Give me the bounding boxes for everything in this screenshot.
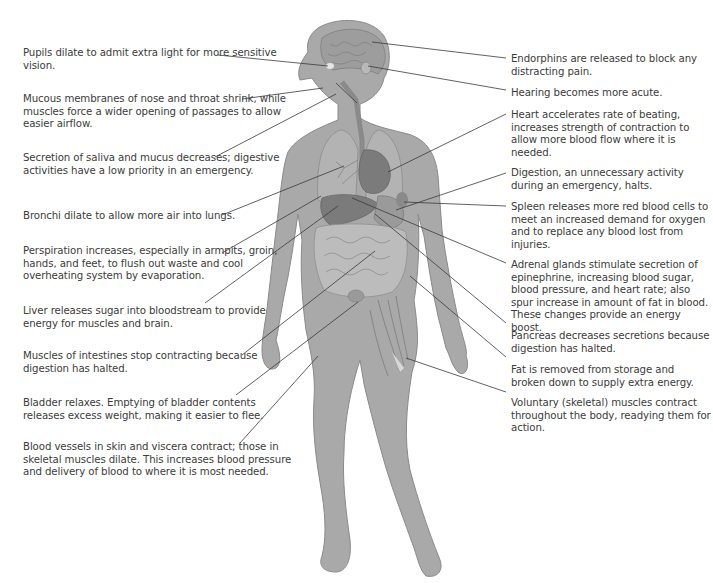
label-digestion: Digestion, an unnecessary activity durin… [511,167,711,192]
label-heart: Heart accelerates rate of beating, incre… [511,109,711,159]
label-pupils: Pupils dilate to admit extra light for m… [23,47,293,72]
label-saliva: Secretion of saliva and mucus decreases;… [23,152,293,177]
bladder [348,290,364,302]
label-liver: Liver releases sugar into bloodstream to… [23,305,293,330]
label-pancreas: Pancreas decreases secretions because di… [511,330,711,355]
label-adrenal: Adrenal glands stimulate secretion of ep… [511,259,711,335]
fight-or-flight-diagram: Pupils dilate to admit extra light for m… [0,0,713,583]
label-blood-vessels: Blood vessels in skin and viscera contra… [23,441,293,479]
label-spleen: Spleen releases more red blood cells to … [511,201,711,251]
label-fat: Fat is removed from storage and broken d… [511,364,711,389]
label-mucous: Mucous membranes of nose and throat shri… [23,93,293,131]
label-hearing: Hearing becomes more acute. [511,87,711,100]
ear [361,62,371,74]
label-intestines: Muscles of intestines stop contracting b… [23,350,293,375]
label-perspiration: Perspiration increases, especially in ar… [23,245,293,283]
spleen [396,192,408,208]
label-muscles: Voluntary (skeletal) muscles contract th… [511,397,711,435]
label-bronchi: Bronchi dilate to allow more air into lu… [23,210,293,223]
label-bladder: Bladder relaxes. Emptying of bladder con… [23,397,293,422]
label-endorphins: Endorphins are released to block any dis… [511,53,711,78]
intestines [314,224,407,297]
